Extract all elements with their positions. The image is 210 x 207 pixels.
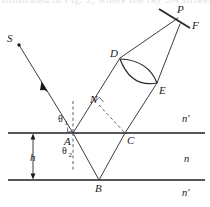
refracted-ray-AB xyxy=(73,133,99,180)
label-theta1-group: θ 1 xyxy=(58,113,69,127)
label-h: h xyxy=(30,151,36,163)
label-medium-middle: n xyxy=(184,153,189,164)
label-N: N xyxy=(89,93,98,105)
label-medium-lower: n′ xyxy=(182,187,190,198)
converging-ray-EP xyxy=(157,24,180,83)
label-B: B xyxy=(95,182,102,194)
label-medium-upper: n′ xyxy=(182,113,190,124)
label-E: E xyxy=(158,84,166,96)
reflected-ray-BC xyxy=(99,133,125,180)
focal-screen-line xyxy=(159,9,190,28)
emergent-ray-CE xyxy=(125,83,157,133)
wavefront-dash-NC xyxy=(99,105,125,133)
height-arrowhead-up xyxy=(31,134,36,140)
source-point-dot xyxy=(17,43,20,46)
label-C: C xyxy=(127,134,135,146)
label-D: D xyxy=(109,47,118,59)
ray-diagram-svg: S A B C D E N P F h θ 1 θ 2 n′ n n′ xyxy=(0,0,210,207)
figure-root: illustrated in Fig. 2, where the ray SA … xyxy=(0,0,210,207)
incident-ray-arrowhead xyxy=(40,82,48,92)
label-theta2-subscript: 2 xyxy=(69,151,73,159)
label-P: P xyxy=(176,3,184,15)
height-arrowhead-down xyxy=(31,174,36,180)
label-theta2: θ xyxy=(62,145,67,156)
label-theta2-group: θ 2 xyxy=(62,145,73,159)
label-theta1: θ xyxy=(58,113,63,124)
label-S: S xyxy=(7,32,13,44)
label-F: F xyxy=(191,19,199,31)
label-theta1-subscript: 1 xyxy=(65,119,69,127)
